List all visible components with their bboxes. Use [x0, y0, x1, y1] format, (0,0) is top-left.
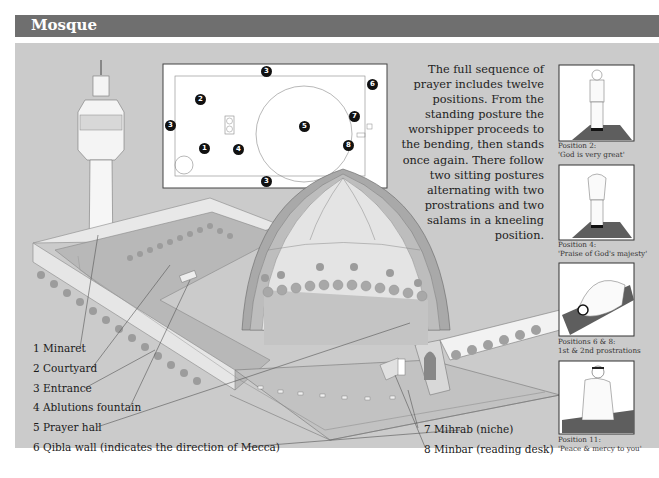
legend-entrance: 3 Entrance [33, 382, 92, 394]
floor-plan [163, 64, 387, 188]
plan-marker: 3 [165, 120, 176, 131]
caption-line: 'Praise of God's majesty' [558, 250, 647, 259]
legend-minaret: 1 Minaret [33, 342, 86, 354]
legend-courtyard: 2 Courtyard [33, 362, 97, 374]
plan-marker: 3 [261, 66, 272, 77]
plan-marker: 1 [199, 143, 210, 154]
plan-marker: 5 [299, 121, 310, 132]
plan-marker: 4 [233, 144, 244, 155]
legend-minbar: 8 Minbar (reading desk) [424, 443, 554, 455]
plan-marker: 2 [195, 94, 206, 105]
position-4-caption: Position 4: 'Praise of God's majesty' [558, 241, 647, 258]
legend-mihrab: 7 Mihrab (niche) [424, 423, 513, 435]
intro-paragraph: The full sequence of prayer includes twe… [398, 62, 544, 243]
plan-marker: 3 [261, 176, 272, 187]
legend-qibla-wall: 6 Qibla wall (indicates the direction of… [33, 441, 280, 453]
caption-line: 'Peace & mercy to you' [558, 445, 642, 454]
caption-line: 'God is very great' [558, 151, 625, 160]
plan-marker: 7 [349, 111, 360, 122]
positions-6-8-caption: Positions 6 & 8: 1st & 2nd prostrations [558, 338, 641, 355]
position-2-caption: Position 2: 'God is very great' [558, 142, 625, 159]
plan-marker: 8 [343, 140, 354, 151]
position-11-caption: Position 11: 'Peace & mercy to you' [558, 436, 642, 453]
plan-marker: 6 [367, 79, 378, 90]
legend-prayer-hall: 5 Prayer hall [33, 421, 102, 433]
caption-line: 1st & 2nd prostrations [558, 347, 641, 356]
legend-ablutions-fountain: 4 Ablutions fountain [33, 401, 141, 413]
